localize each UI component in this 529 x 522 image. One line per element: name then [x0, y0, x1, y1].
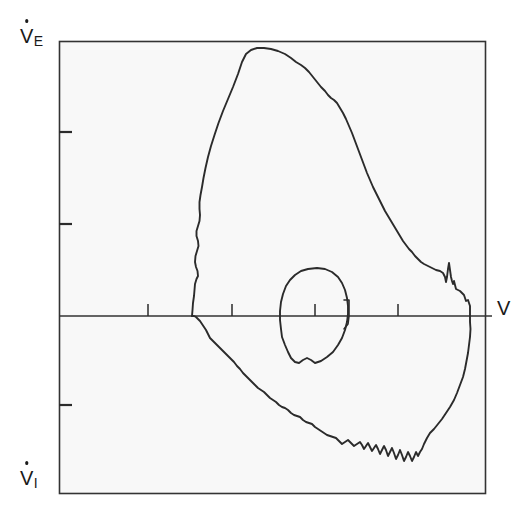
plot-area-fill: [59, 41, 486, 494]
chart-canvas: [0, 0, 529, 522]
x-axis-label: V: [497, 298, 510, 318]
y-axis-negative-subscript: I: [34, 475, 38, 491]
v-dot-glyph-inspiratory: V: [20, 468, 33, 488]
flow-volume-loop-figure: VE VI V: [0, 0, 529, 522]
v-dot-glyph-expiratory: V: [20, 26, 33, 46]
plot-background: [59, 41, 486, 494]
y-axis-positive-label: VE: [20, 26, 43, 48]
y-axis-negative-label: VI: [20, 468, 38, 490]
y-axis-positive-subscript: E: [34, 33, 43, 49]
